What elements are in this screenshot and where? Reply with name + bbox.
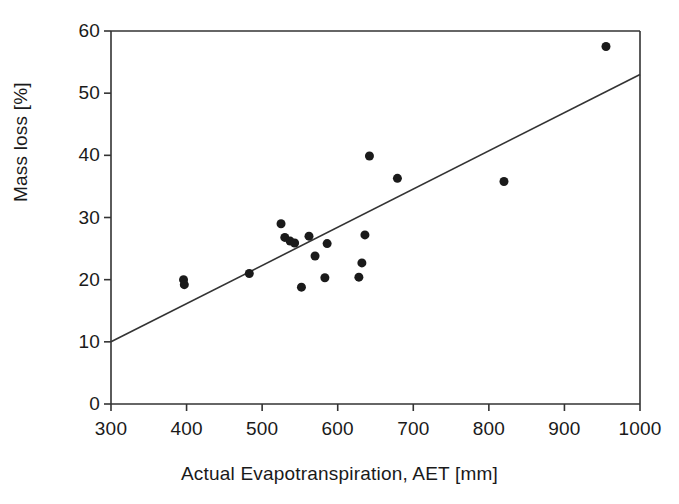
data-point	[360, 230, 369, 239]
data-point	[357, 258, 366, 267]
data-point	[180, 280, 189, 289]
data-point	[365, 151, 374, 160]
x-tick-label: 900	[548, 418, 580, 440]
y-tick-label: 30	[55, 207, 100, 229]
data-point	[245, 269, 254, 278]
x-tick-label: 1000	[618, 418, 661, 440]
data-point	[290, 238, 299, 247]
y-tick-label: 0	[55, 393, 100, 415]
data-point	[393, 174, 402, 183]
regression-line-group	[111, 75, 640, 342]
y-tick-label: 50	[55, 82, 100, 104]
x-axis-ticks	[111, 404, 640, 411]
data-point	[323, 239, 332, 248]
y-tick-label: 20	[55, 269, 100, 291]
data-point	[601, 42, 610, 51]
plot-frame	[111, 31, 640, 404]
data-point	[320, 273, 329, 282]
data-point	[354, 273, 363, 282]
x-tick-label: 500	[246, 418, 278, 440]
x-tick-label: 400	[170, 418, 202, 440]
y-axis-ticks	[104, 31, 111, 404]
data-point	[304, 232, 313, 241]
x-tick-label: 600	[322, 418, 354, 440]
scatter-chart-figure: 0102030405060 3004005006007008009001000 …	[0, 0, 679, 504]
y-tick-label: 60	[55, 20, 100, 42]
y-axis-title: Mass loss [%]	[10, 82, 32, 202]
x-tick-label: 800	[473, 418, 505, 440]
data-point	[297, 283, 306, 292]
x-tick-label: 300	[95, 418, 127, 440]
data-points-group	[179, 42, 610, 292]
x-tick-label: 700	[397, 418, 429, 440]
data-point	[277, 219, 286, 228]
x-axis-title: Actual Evapotranspiration, AET [mm]	[0, 463, 679, 485]
y-tick-label: 40	[55, 144, 100, 166]
regression-line	[111, 75, 640, 342]
data-point	[499, 177, 508, 186]
y-tick-label: 10	[55, 331, 100, 353]
data-point	[311, 252, 320, 261]
